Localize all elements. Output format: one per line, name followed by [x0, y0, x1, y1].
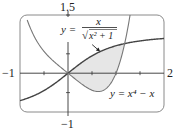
- y-tick-label-top: 1.5: [60, 0, 75, 14]
- shaded-region-layer: [68, 44, 125, 92]
- shaded-area: [68, 44, 125, 92]
- curve-label-1-denominator: x² + 1: [88, 30, 113, 41]
- x-tick-label-right: 2: [167, 66, 173, 80]
- curve-label-1-numerator: x: [95, 15, 101, 27]
- chart: −1 2 1.5 −1 y = x √ x² + 1 y = x⁴ − x: [0, 0, 179, 140]
- y-tick-label-bottom: −1: [61, 117, 74, 131]
- x-tick-label-left: −1: [2, 66, 15, 80]
- curve-label-2: y = x⁴ − x: [109, 87, 154, 99]
- curve-label-1-radical: √: [82, 29, 89, 41]
- curve-label-1-lhs: y =: [60, 23, 76, 35]
